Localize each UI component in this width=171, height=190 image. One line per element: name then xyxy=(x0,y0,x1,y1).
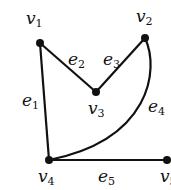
edge-e4 xyxy=(49,38,151,160)
vertex-v5 xyxy=(163,156,171,164)
edge-label-e2: e2 xyxy=(68,49,85,71)
edge-e1 xyxy=(40,43,49,160)
vertex-label-v2: v2 xyxy=(136,6,153,28)
vertex-label-v1: v1 xyxy=(26,8,43,30)
vertex-v3 xyxy=(92,88,100,96)
vertex-label-v3: v3 xyxy=(88,98,105,120)
vertex-v1 xyxy=(36,39,44,47)
edge-label-e4: e4 xyxy=(148,96,165,118)
vertex-label-v4: v4 xyxy=(38,166,55,188)
edge-label-e1: e1 xyxy=(22,90,39,112)
vertex-v4 xyxy=(45,156,53,164)
vertex-v2 xyxy=(141,34,149,42)
vertex-label-v5: v5 xyxy=(160,166,171,188)
graph-diagram: v1v2v3v4v5e1e2e3e4e5 xyxy=(0,0,171,190)
edge-label-e5: e5 xyxy=(98,166,115,188)
edge-label-e3: e3 xyxy=(103,49,120,71)
